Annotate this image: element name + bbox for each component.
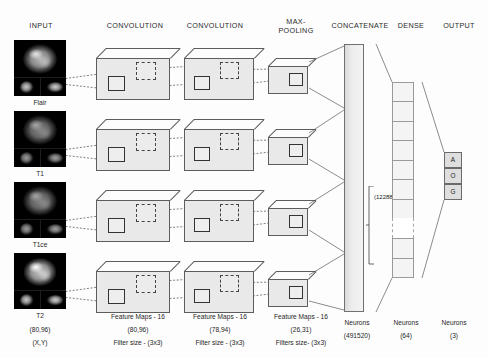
output-class-o: O: [444, 168, 462, 184]
input-image-t1ce: [14, 182, 66, 238]
maxpool-block-row4: [268, 271, 316, 307]
receptive-field-square: [108, 289, 125, 304]
receptive-field-square: [108, 147, 125, 162]
pool-window-square: [289, 144, 303, 157]
maxpool-block-row2: [268, 129, 316, 165]
input-axis-label: (X,Y): [10, 338, 70, 348]
mri-coronal-view: [40, 77, 66, 96]
header-dense: DENSE: [388, 22, 434, 31]
dense-neuron: [392, 199, 414, 218]
maxpool-block-row1: [268, 58, 316, 94]
header-convolution-2: CONVOLUTION: [172, 22, 258, 31]
filter-cube: [136, 204, 156, 222]
receptive-field-square: [108, 218, 125, 233]
mri-sagittal-view: [14, 148, 40, 167]
input-image-t2: [14, 253, 66, 309]
conv1-block-row1: [96, 48, 180, 100]
receptive-field-square: [194, 218, 210, 232]
filter-cube: [136, 133, 156, 151]
dense-layer: [392, 82, 414, 278]
filter-cube: [220, 275, 239, 292]
dense-neuron: [392, 140, 414, 159]
conv2-filter-label: Filter size - (3x3): [174, 338, 266, 348]
concatenate-layer: [344, 44, 364, 312]
filter-cube: [220, 204, 239, 221]
mri-axial-view: [14, 182, 66, 219]
conv2-block-row2: [184, 119, 264, 171]
conv2-block-row1: [184, 48, 264, 100]
filter-cube: [136, 62, 156, 80]
receptive-field-square: [194, 289, 210, 303]
header-convolution-1: CONVOLUTION: [92, 22, 178, 31]
receptive-field-square: [108, 76, 125, 91]
conv2-maps-label: Feature Maps - 16: [174, 312, 266, 322]
input-image-t1: [14, 111, 66, 167]
receptive-field-square: [194, 147, 210, 161]
pool-window-square: [289, 215, 303, 228]
cnn-architecture-figure: INPUT CONVOLUTION CONVOLUTION MAX- POOLI…: [0, 0, 488, 358]
dense-neuron: [392, 121, 414, 140]
conv1-block-row4: [96, 261, 180, 313]
mri-coronal-view: [40, 148, 66, 167]
concat-neurons-label: Neurons: [330, 318, 384, 328]
conv1-maps-label: Feature Maps - 16: [92, 312, 184, 322]
dense-neuron: [392, 101, 414, 120]
pool-window-square: [289, 286, 303, 299]
input-dimension-label: (80,96): [10, 325, 70, 335]
conv1-block-row2: [96, 119, 180, 171]
dense-neuron: [392, 258, 414, 278]
dense-neuron: [392, 160, 414, 179]
input-image-flair: [14, 40, 66, 96]
filter-cube: [136, 275, 156, 293]
output-class-g: G: [444, 184, 462, 200]
input-label-t1: T1: [12, 170, 68, 177]
conv1-filter-label: Filter size - (3x3): [92, 338, 184, 348]
filter-cube: [220, 133, 239, 150]
input-label-flair: Flair: [12, 99, 68, 106]
conv2-size-label: (78,94): [174, 325, 266, 335]
output-neurons-label: Neurons: [434, 318, 474, 328]
dense-ellipsis-gap: [392, 218, 414, 238]
input-label-t2: T2: [12, 312, 68, 319]
mri-axial-view: [14, 111, 66, 148]
dense-neuron: [392, 82, 414, 101]
output-class-a: A: [444, 152, 462, 168]
conv1-size-label: (80,96): [92, 325, 184, 335]
conv2-block-row3: [184, 190, 264, 242]
maxpool-block-row3: [268, 200, 316, 236]
mri-axial-view: [14, 253, 66, 290]
dense-neurons-count: (64): [386, 331, 426, 341]
receptive-field-square: [194, 76, 210, 90]
filter-cube: [220, 62, 239, 79]
mri-coronal-view: [40, 290, 66, 309]
output-neurons-count: (3): [434, 331, 474, 341]
concat-neurons-count: (491520): [330, 331, 384, 341]
pool-window-square: [289, 73, 303, 86]
mri-sagittal-view: [14, 290, 40, 309]
mri-sagittal-view: [14, 77, 40, 96]
header-max-pooling: MAX- POOLING: [262, 18, 330, 35]
mri-sagittal-view: [14, 219, 40, 238]
dense-neurons-label: Neurons: [386, 318, 426, 328]
mri-axial-view: [14, 40, 66, 77]
dense-neuron: [392, 179, 414, 198]
conv2-block-row4: [184, 261, 264, 313]
mri-coronal-view: [40, 219, 66, 238]
input-label-t1ce: T1ce: [12, 241, 68, 248]
dense-neuron: [392, 238, 414, 257]
header-output: OUTPUT: [436, 22, 482, 31]
conv1-block-row3: [96, 190, 180, 242]
header-input: INPUT: [14, 22, 68, 31]
header-concatenate: CONCATENATE: [324, 22, 396, 31]
